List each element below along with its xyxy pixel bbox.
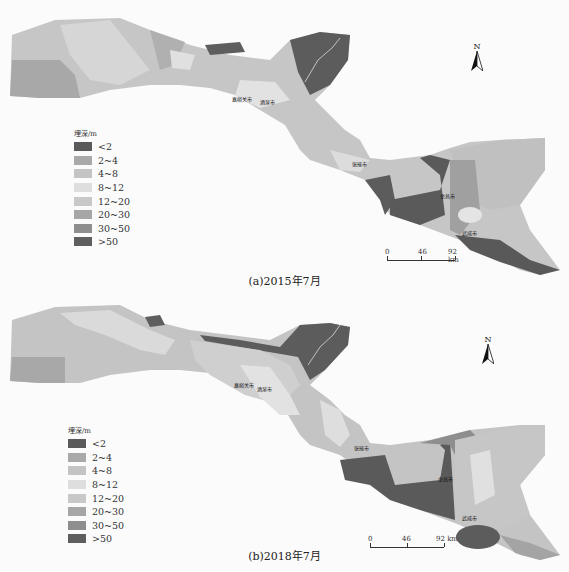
city-label-jinchang: 金昌市 xyxy=(438,476,453,483)
legend-item: >50 xyxy=(74,235,130,249)
legend-item: 2~4 xyxy=(74,154,130,168)
north-arrow-icon xyxy=(482,344,494,364)
scale-bar: 0 46 92 km xyxy=(386,248,466,268)
north-arrow: N xyxy=(469,42,485,73)
city-label-zhangye: 张掖市 xyxy=(352,161,367,168)
north-arrow: N xyxy=(480,335,496,366)
legend-item: 20~30 xyxy=(68,505,124,519)
city-label-jiayuguan: 嘉峪关市 xyxy=(234,382,254,389)
map-panel-2015: 嘉峪关市 酒泉市 张掖市 金昌市 武威市 埋深/m <2 2~4 4~8 8~1… xyxy=(0,0,569,285)
caption-2018: (b)2018年7月 xyxy=(0,547,569,563)
legend-item: 4~8 xyxy=(68,464,124,478)
north-label: N xyxy=(480,335,496,344)
city-label-wuwei: 武威市 xyxy=(462,515,477,522)
city-label-jinchang: 金昌市 xyxy=(440,193,455,200)
north-arrow-icon xyxy=(471,51,483,71)
city-label-wuwei: 武威市 xyxy=(462,230,477,237)
legend-item: 2~4 xyxy=(68,451,124,465)
legend: 埋深/m <2 2~4 4~8 8~12 12~20 20~30 30~50 >… xyxy=(68,425,124,546)
legend-item: 20~30 xyxy=(74,208,130,222)
legend-title: 埋深/m xyxy=(68,425,124,435)
legend-title: 埋深/m xyxy=(74,128,130,138)
legend-item: >50 xyxy=(68,532,124,546)
map-panel-2018: 嘉峪关市 酒泉市 张掖市 金昌市 武威市 埋深/m <2 2~4 4~8 8~1… xyxy=(0,285,569,572)
legend-item: 30~50 xyxy=(74,222,130,236)
legend-item: 4~8 xyxy=(74,167,130,181)
legend-item: 8~12 xyxy=(74,181,130,195)
legend-item: 12~20 xyxy=(74,194,130,208)
legend-item: 30~50 xyxy=(68,519,124,533)
city-label-zhangye: 张掖市 xyxy=(354,445,369,452)
legend: 埋深/m <2 2~4 4~8 8~12 12~20 20~30 30~50 >… xyxy=(74,128,130,249)
north-label: N xyxy=(469,42,485,51)
city-label-jiuquan: 酒泉市 xyxy=(260,99,275,106)
city-label-jiuquan: 酒泉市 xyxy=(257,386,272,393)
legend-item: <2 xyxy=(74,140,130,154)
legend-item: 12~20 xyxy=(68,491,124,505)
legend-item: <2 xyxy=(68,437,124,451)
legend-item: 8~12 xyxy=(68,478,124,492)
city-label-jiayuguan: 嘉峪关市 xyxy=(232,96,252,103)
